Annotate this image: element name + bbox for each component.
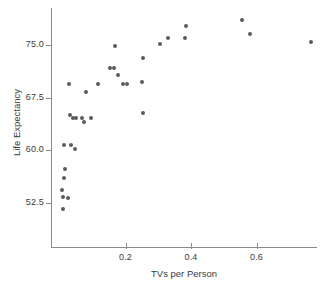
data-point bbox=[62, 176, 66, 180]
data-point bbox=[125, 82, 129, 86]
data-point bbox=[112, 66, 116, 70]
data-point bbox=[74, 116, 78, 120]
y-tick-label: 52.5 bbox=[4, 197, 44, 207]
data-point bbox=[60, 188, 64, 192]
x-tick-mark bbox=[126, 243, 127, 249]
data-point bbox=[248, 32, 252, 36]
y-axis-title: Life Expectancy bbox=[11, 63, 22, 183]
data-point bbox=[63, 167, 67, 171]
y-tick-mark bbox=[46, 150, 52, 151]
y-tick-mark bbox=[46, 203, 52, 204]
data-point bbox=[73, 147, 77, 151]
data-point bbox=[61, 195, 65, 199]
data-point bbox=[96, 82, 100, 86]
data-point bbox=[158, 42, 162, 46]
data-point bbox=[140, 80, 144, 84]
data-point bbox=[113, 44, 117, 48]
data-point bbox=[309, 40, 313, 44]
y-tick-mark bbox=[46, 98, 52, 99]
data-point bbox=[240, 18, 244, 22]
x-tick-label: 0.4 bbox=[171, 252, 211, 262]
y-tick-label: 75.0 bbox=[4, 39, 44, 49]
scatter-plot-figure: 52.560.067.575.0 0.20.40.6 Life Expectan… bbox=[0, 0, 329, 288]
y-axis-line bbox=[51, 8, 52, 248]
data-point bbox=[89, 116, 93, 120]
y-tick-mark bbox=[46, 45, 52, 46]
data-point bbox=[66, 196, 70, 200]
data-point bbox=[84, 90, 88, 94]
data-point bbox=[183, 36, 187, 40]
data-point bbox=[184, 24, 188, 28]
data-point bbox=[166, 36, 170, 40]
data-point bbox=[61, 207, 65, 211]
data-point bbox=[69, 143, 73, 147]
data-point bbox=[67, 82, 71, 86]
data-point bbox=[141, 56, 145, 60]
data-point bbox=[116, 73, 120, 77]
data-point bbox=[141, 111, 145, 115]
data-point bbox=[82, 120, 86, 124]
x-tick-label: 0.2 bbox=[106, 252, 146, 262]
x-tick-label: 0.6 bbox=[237, 252, 277, 262]
x-tick-mark bbox=[191, 243, 192, 249]
data-point bbox=[62, 143, 66, 147]
x-tick-mark bbox=[257, 243, 258, 249]
x-axis-line bbox=[51, 247, 317, 248]
x-axis-title: TVs per Person bbox=[51, 268, 317, 279]
